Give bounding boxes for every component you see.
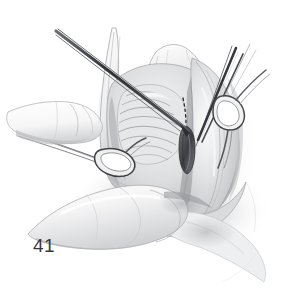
figure-number-label: 41: [33, 236, 55, 255]
figure-container: 41: [0, 0, 305, 291]
